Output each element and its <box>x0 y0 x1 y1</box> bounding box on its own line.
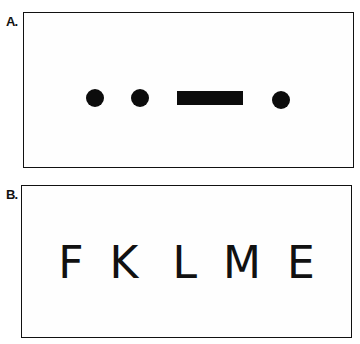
panel-a-box <box>23 12 354 168</box>
letter: K <box>110 236 139 287</box>
panel-b-box: F K L M E <box>21 185 352 338</box>
panel-b-label: B. <box>6 187 17 202</box>
morse-dot <box>131 89 149 107</box>
morse-dash <box>177 91 243 105</box>
letter: L <box>172 236 197 287</box>
letter: M <box>223 236 261 287</box>
morse-dot <box>272 91 290 109</box>
morse-dot <box>86 89 104 107</box>
panel-a-label: A. <box>6 14 17 29</box>
letter: F <box>58 236 83 287</box>
letter: E <box>287 236 315 287</box>
letter-row: F K L M E <box>22 236 351 287</box>
